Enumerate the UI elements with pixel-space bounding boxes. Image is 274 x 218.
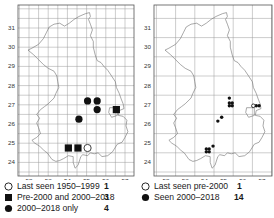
x-tick-label: 54	[64, 177, 71, 181]
filled-circle-marker	[75, 116, 82, 123]
distribution-map-right: 5253545556573130292827262524	[137, 0, 274, 180]
y-tick-label: 28	[144, 82, 151, 89]
legend-item-2000-2018-only: 2000–2018 only 4	[4, 203, 136, 214]
x-tick-label: 55	[83, 177, 90, 181]
legend-left: Last seen 1950–1999 1 Pre-2000 and 2000–…	[4, 181, 136, 214]
x-tick-label: 52	[163, 177, 170, 181]
filled-square-marker	[113, 106, 120, 113]
filled-square-icon	[4, 193, 13, 202]
legend-item-seen-2000-2018: Seen 2000–2018 14	[141, 192, 273, 203]
legend-count: 14	[234, 192, 244, 203]
x-tick-label: 53	[182, 177, 189, 181]
filled-dot-marker	[257, 104, 260, 107]
y-tick-label: 24	[8, 158, 15, 165]
x-tick-label: 56	[102, 177, 109, 181]
y-tick-label: 31	[144, 24, 151, 31]
filled-dot-marker	[231, 104, 234, 107]
filled-circle-marker	[94, 106, 101, 113]
y-tick-label: 25	[144, 139, 151, 146]
legend-item-pre-and-post-2000: Pre-2000 and 2000–2018 3	[4, 192, 136, 203]
map-panel-right: 5253545556573130292827262524	[137, 0, 274, 180]
distribution-map-left: 5253545556573130292827262524	[0, 0, 137, 180]
legend-count: 1	[104, 181, 109, 192]
y-tick-label: 27	[8, 101, 15, 108]
filled-dot-marker	[208, 150, 211, 153]
y-tick-label: 30	[144, 43, 151, 50]
open-circle-marker	[84, 144, 91, 151]
filled-dot-marker	[220, 116, 223, 119]
x-tick-label: 56	[239, 177, 246, 181]
y-tick-label: 25	[8, 139, 15, 146]
x-tick-label: 53	[45, 177, 52, 181]
filled-dot-marker	[216, 119, 219, 122]
filled-circle-icon	[4, 204, 13, 213]
open-circle-icon	[4, 182, 13, 191]
y-tick-label: 26	[144, 120, 151, 127]
map-panel-left: 5253545556573130292827262524	[0, 0, 137, 180]
x-tick-label: 55	[220, 177, 227, 181]
y-tick-label: 27	[144, 101, 151, 108]
legend-right: Last seen pre-2000 1 Seen 2000–2018 14	[141, 181, 273, 203]
y-tick-label: 28	[8, 82, 15, 89]
y-tick-label: 30	[8, 43, 15, 50]
x-tick-label: 57	[259, 177, 266, 181]
y-tick-label: 29	[8, 62, 15, 69]
grid-lines	[154, 5, 272, 176]
y-tick-label: 24	[144, 158, 151, 165]
county-boundary	[165, 13, 265, 169]
legend-item-last-seen-pre-2000: Last seen pre-2000 1	[141, 181, 273, 192]
filled-dot-marker	[228, 96, 231, 99]
map-frame	[154, 5, 272, 176]
y-tick-label: 31	[8, 24, 15, 31]
y-tick-label: 26	[8, 120, 15, 127]
legend-count: 3	[104, 192, 109, 203]
filled-circle-icon	[141, 193, 150, 202]
filled-circle-marker	[84, 97, 91, 104]
legend-count: 4	[104, 203, 109, 214]
record-markers	[65, 97, 120, 151]
open-circle-icon	[141, 182, 150, 191]
filled-square-marker	[74, 144, 81, 151]
legend-count: 1	[237, 181, 242, 192]
legend-item-last-seen: Last seen 1950–1999 1	[4, 181, 136, 192]
y-tick-label: 29	[144, 62, 151, 69]
x-tick-label: 54	[201, 177, 208, 181]
filled-circle-marker	[94, 97, 101, 104]
filled-dot-marker	[211, 144, 214, 147]
x-tick-label: 52	[26, 177, 33, 181]
filled-square-marker	[65, 144, 72, 151]
x-tick-label: 57	[122, 177, 129, 181]
open-circle-marker	[252, 104, 256, 108]
enclave-boundary	[246, 108, 255, 118]
